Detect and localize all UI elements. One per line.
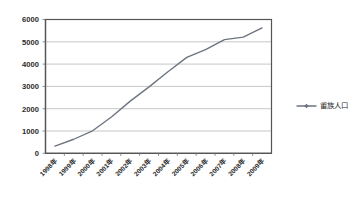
ytick-label-2000: 2000 [22,105,39,114]
ytick-label-3000: 3000 [22,82,39,91]
ytick-label-1000: 1000 [22,127,39,136]
line-chart: 6000 5000 4000 3000 2000 1000 0 1998年199… [0,0,357,198]
ytick-label-4000: 4000 [22,60,39,69]
ytick-label-5000: 5000 [22,38,39,47]
chart-canvas: 6000 5000 4000 3000 2000 1000 0 1998年199… [0,0,357,198]
legend-label-0: 畲族人口 [320,101,348,110]
ytick-label-0: 0 [35,149,39,158]
ytick-label-6000: 6000 [22,15,39,24]
